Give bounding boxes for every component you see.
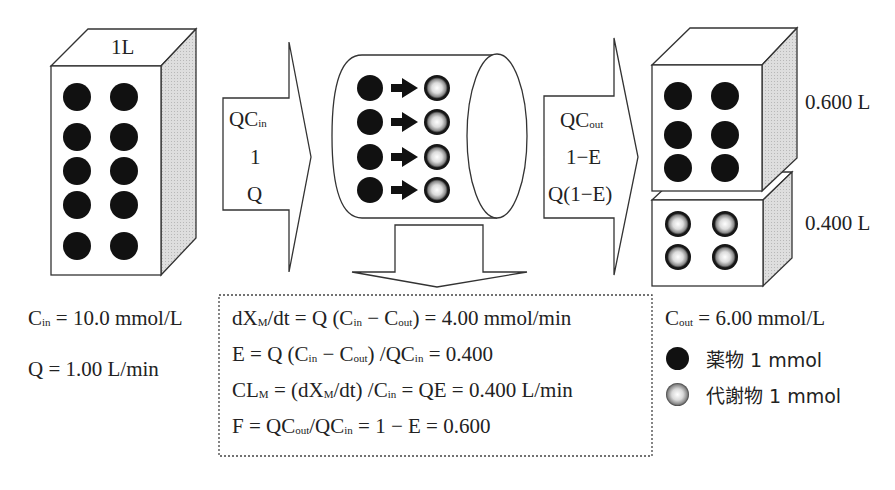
outlet-upper-volume-label: 0.600 L: [805, 90, 870, 115]
outlet-lower-volume-label: 0.400 L: [805, 211, 870, 236]
inlet-volume-label: 1L: [111, 35, 134, 60]
inlet-flow-rate: Q = 1.00 L/min: [28, 357, 159, 382]
inflow-label-q: Q: [247, 182, 262, 207]
elimination-down-arrow: [352, 225, 527, 287]
outlet-concentration: Cout = 6.00 mmol/L: [665, 306, 825, 331]
inflow-arrow: [223, 42, 311, 272]
outflow-label-fraction: 1−E: [566, 145, 601, 170]
inlet-concentration: Cin = 10.0 mmol/L: [28, 306, 183, 331]
inflow-label-ratio: 1: [250, 145, 261, 170]
equation-extraction-ratio: E = Q (Cin − Cout) /QCin = 0.400: [232, 342, 493, 367]
inflow-label-qcin: QCin: [229, 107, 267, 132]
drug-dot-icon: [666, 347, 689, 370]
outflow-label-q-fraction: Q(1−E): [548, 182, 612, 207]
equation-availability: F = QCout/QCin = 1 − E = 0.600: [232, 414, 490, 439]
metabolite-dot-icon: [666, 383, 689, 406]
legend-drug-label: 薬物 1 mmol: [706, 345, 822, 372]
equation-clearance: CLM = (dXM/dt) /Cin = QE = 0.400 L/min: [232, 378, 573, 403]
outflow-label-qcout: QCout: [560, 108, 603, 133]
legend-metabolite-label: 代謝物 1 mmol: [706, 381, 841, 408]
equation-metabolic-rate: dXM/dt = Q (Cin − Cout) = 4.00 mmol/min: [232, 306, 571, 331]
